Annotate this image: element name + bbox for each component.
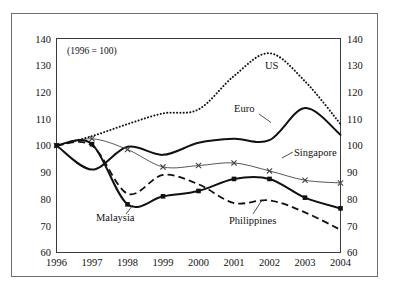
x-tick-2003: 2003 [295, 257, 316, 268]
marker-malaysia-2004 [338, 206, 343, 211]
marker-malaysia-1999 [161, 194, 166, 199]
x-tick-2004: 2004 [330, 257, 352, 268]
series-line-euro [57, 108, 341, 170]
base-year-note: (1996 = 100) [67, 46, 117, 57]
right-axis-tick-80: 80 [347, 194, 358, 205]
right-axis-tick-130: 130 [347, 60, 363, 71]
line-chart: 140 130 120 110 100 90 80 70 60 140 130 … [0, 0, 393, 290]
right-axis-tick-100: 100 [347, 140, 363, 151]
right-axis-tick-140: 140 [347, 34, 363, 45]
left-axis-tick-70: 70 [41, 221, 52, 232]
series-line-us [57, 53, 341, 145]
right-axis-tick-90: 90 [347, 167, 358, 178]
series-label-us: US [265, 60, 279, 71]
series-us [57, 53, 341, 145]
x-tick-2001: 2001 [224, 257, 245, 268]
x-tick-2000: 2000 [188, 257, 209, 268]
x-tick-2002: 2002 [259, 257, 280, 268]
marker-malaysia-1998 [125, 202, 130, 207]
left-axis-tick-100: 100 [35, 140, 51, 151]
x-tick-1996: 1996 [46, 257, 67, 268]
left-axis-tick-90: 90 [41, 167, 52, 178]
left-axis-tick-130: 130 [35, 60, 51, 71]
left-axis-tick-140: 140 [35, 34, 51, 45]
left-axis-tick-120: 120 [35, 87, 51, 98]
series-label-philippines: Philippines [229, 215, 276, 226]
marker-malaysia-2003 [303, 195, 308, 200]
euro-leader-line [259, 114, 271, 123]
series-euro [57, 108, 341, 170]
marker-malaysia-2001 [232, 177, 237, 182]
chart-figure: 140 130 120 110 100 90 80 70 60 140 130 … [0, 0, 393, 290]
right-axis-tick-120: 120 [347, 87, 363, 98]
left-axis-tick-110: 110 [36, 114, 51, 125]
series-label-euro: Euro [234, 103, 254, 114]
series-label-singapore: Singapore [294, 147, 337, 158]
x-tick-1999: 1999 [153, 257, 174, 268]
x-tick-1997: 1997 [82, 257, 103, 268]
right-axis-tick-70: 70 [347, 221, 358, 232]
marker-malaysia-2002 [267, 177, 272, 182]
series-line-singapore [57, 139, 341, 183]
x-tick-1998: 1998 [117, 257, 138, 268]
marker-malaysia-2000 [196, 189, 201, 194]
series-label-malaysia: Malaysia [96, 212, 135, 223]
singapore-leader-line [282, 152, 293, 158]
left-axis-tick-80: 80 [41, 194, 52, 205]
right-axis-tick-110: 110 [347, 114, 362, 125]
series-layer [54, 53, 343, 230]
